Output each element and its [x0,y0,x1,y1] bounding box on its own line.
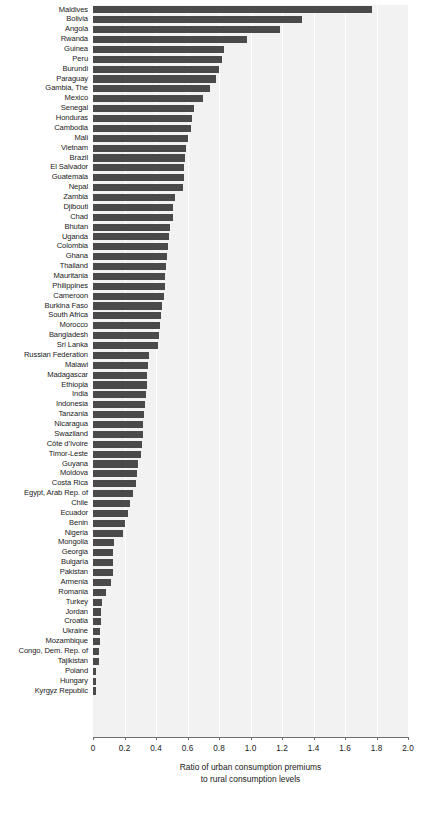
category-label: Côte d’Ivoire [0,439,88,449]
bar [93,381,147,388]
bar [93,233,169,240]
chart-row: Guatemala [0,173,422,183]
bar [93,204,173,211]
category-label: Mongolia [0,537,88,547]
bar [93,362,148,369]
category-label: Costa Rica [0,478,88,488]
bar [93,214,173,221]
bar [93,549,113,556]
chart-row: Burkina Faso [0,301,422,311]
bar [93,36,247,43]
x-axis-title-line-1: Ratio of urban consumption premiums [93,762,408,774]
bar [93,539,114,546]
bar [93,75,216,82]
category-label: Bolivia [0,14,88,24]
x-axis-tick [408,737,409,740]
bar [93,391,146,398]
x-axis-tick [345,737,346,740]
bar [93,105,194,112]
chart-row: Colombia [0,242,422,252]
bar [93,224,170,231]
chart-row: Vietnam [0,143,422,153]
category-label: Hungary [0,676,88,686]
bar [93,184,183,191]
chart-row: India [0,390,422,400]
category-label: Burundi [0,64,88,74]
category-label: Zambia [0,192,88,202]
category-label: Moldova [0,468,88,478]
category-label: Malawi [0,360,88,370]
chart-row: Honduras [0,114,422,124]
category-label: Sri Lanka [0,340,88,350]
category-label: Cambodia [0,123,88,133]
category-label: Poland [0,666,88,676]
category-label: Madagascar [0,370,88,380]
bar [93,470,137,477]
bar [93,322,160,329]
category-label: Brazil [0,153,88,163]
chart-row: Ecuador [0,508,422,518]
category-label: Guinea [0,44,88,54]
category-label: Russian Federation [0,350,88,360]
category-label: Burkina Faso [0,301,88,311]
chart-row: Egypt, Arab Rep. of [0,489,422,499]
bar [93,243,168,250]
category-label: Rwanda [0,34,88,44]
chart-row: Ethiopia [0,380,422,390]
category-label: El Salvador [0,162,88,172]
chart-row: Uganda [0,232,422,242]
category-label: Cameroon [0,291,88,301]
chart-row: Turkey [0,597,422,607]
category-label: South Africa [0,310,88,320]
bar [93,500,130,507]
bar [93,283,165,290]
bar [93,451,141,458]
chart-row: Bangladesh [0,331,422,341]
chart-row: Armenia [0,577,422,587]
category-label: Swaziland [0,429,88,439]
bar [93,352,149,359]
bar [93,678,96,685]
bar [93,26,280,33]
chart-row: Georgia [0,548,422,558]
bar [93,490,133,497]
category-label: Jordan [0,607,88,617]
bar [93,135,188,142]
chart-row: Bolivia [0,15,422,25]
chart-row: Mali [0,133,422,143]
bar [93,618,101,625]
chart-row: Tajikistan [0,656,422,666]
category-label: Guatemala [0,172,88,182]
category-label: Ethiopia [0,380,88,390]
chart-row: Tanzania [0,410,422,420]
x-axis-tick [377,737,378,740]
category-label: Bhutan [0,222,88,232]
bar [93,569,113,576]
chart-row: Russian Federation [0,350,422,360]
category-label: Ghana [0,251,88,261]
x-axis [93,737,408,739]
chart-row: Pakistan [0,568,422,578]
x-axis-title: Ratio of urban consumption premiums to r… [93,762,408,785]
bar [93,401,145,408]
category-label: Nepal [0,182,88,192]
category-label: Bangladesh [0,330,88,340]
category-label: Honduras [0,113,88,123]
bar [93,6,372,13]
bar [93,302,162,309]
bar [93,579,111,586]
chart-row: Malawi [0,360,422,370]
x-axis-tick [314,737,315,740]
bar [93,164,184,171]
chart-row: Paraguay [0,74,422,84]
x-axis-tick [219,737,220,740]
category-label: Paraguay [0,74,88,84]
chart-row: Thailand [0,262,422,272]
category-label: Romania [0,587,88,597]
category-label: Benin [0,518,88,528]
bar [93,95,203,102]
bar [93,342,158,349]
bar [93,273,165,280]
category-label: Tajikistan [0,656,88,666]
x-axis-tick [282,737,283,740]
